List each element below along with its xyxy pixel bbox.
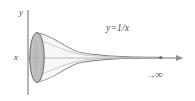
right-arrow-icon: → [146,69,155,80]
gabriels-horn-figure: y x y=1/x →∞ [0,0,195,101]
x-axis-label: x [14,53,18,62]
infinity-icon: ∞ [155,68,163,80]
limit-to-infinity-annotation: →∞ [146,69,163,80]
y-axis-label: y [19,8,23,17]
curve-equation-label: y=1/x [106,24,129,34]
horn-tip-point [160,56,163,59]
diagram-canvas [0,0,195,101]
